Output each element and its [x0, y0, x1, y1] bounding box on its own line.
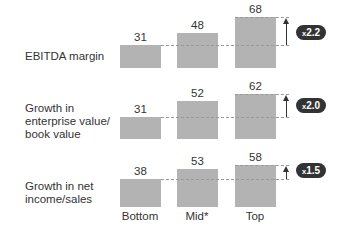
value-label: 31: [120, 31, 161, 43]
baseline-dash: [161, 45, 289, 46]
x-label-mid: Mid*: [167, 210, 227, 222]
arrowhead-icon: [283, 166, 289, 172]
row-label-ev-growth: Growth in enterprise value/ book value: [25, 102, 110, 141]
arrowhead-icon: [283, 18, 289, 24]
bar-mid: [177, 33, 218, 68]
value-label: 31: [120, 103, 161, 115]
multiplier-badge: x1.5: [296, 163, 326, 178]
arrowhead-icon: [283, 95, 289, 101]
value-label: 48: [177, 19, 218, 31]
value-label: 58: [235, 151, 276, 163]
value-label: 52: [177, 87, 218, 99]
top-dash: [235, 17, 289, 18]
arrow-up-icon: [286, 22, 287, 45]
multiplier-badge: x2.0: [296, 98, 326, 113]
bar-top: [235, 165, 276, 207]
multiplier-badge: x2.2: [296, 25, 326, 40]
x-label-top: Top: [225, 210, 285, 222]
arrow-up-icon: [286, 99, 287, 117]
bar-bottom: [120, 179, 161, 207]
row-label-net-income: Growth in net income/sales: [25, 180, 93, 206]
bar-bottom: [120, 117, 161, 139]
bar-mid: [177, 101, 218, 139]
value-label: 68: [235, 3, 276, 15]
top-dash: [235, 165, 289, 166]
bar-top: [235, 17, 276, 68]
top-dash: [235, 94, 289, 95]
baseline-dash: [161, 179, 289, 180]
bar-bottom: [120, 45, 161, 68]
x-label-bottom: Bottom: [110, 210, 170, 222]
bar-mid: [177, 169, 218, 207]
baseline-dash: [161, 117, 289, 118]
row-label-ebitda: EBITDA margin: [25, 50, 104, 63]
value-label: 62: [235, 80, 276, 92]
value-label: 53: [177, 155, 218, 167]
value-label: 38: [120, 165, 161, 177]
